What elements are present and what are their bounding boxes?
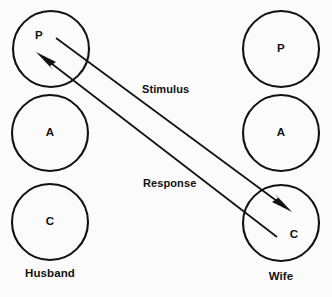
diagram-canvas: P A C Husband P A C xyxy=(0,0,332,297)
ego-state-husband-adult[interactable]: A xyxy=(12,95,88,171)
husband-column: P A C Husband xyxy=(12,11,89,279)
ego-state-wife-adult[interactable]: A xyxy=(243,95,319,171)
transaction-diagram: P A C Husband P A C xyxy=(0,0,332,297)
wife-adult-letter: A xyxy=(277,126,286,138)
wife-column: P A C Wife xyxy=(243,11,319,282)
wife-child-letter: C xyxy=(290,228,299,240)
wife-column-label: Wife xyxy=(269,270,294,282)
stimulus-label: Stimulus xyxy=(142,83,189,95)
husband-parent-letter: P xyxy=(35,29,43,41)
wife-parent-letter: P xyxy=(277,42,285,54)
ego-state-wife-parent[interactable]: P xyxy=(243,11,319,87)
ego-state-wife-child[interactable]: C xyxy=(243,185,319,261)
husband-column-label: Husband xyxy=(25,267,75,279)
husband-parent-circle[interactable] xyxy=(13,11,89,87)
wife-child-circle[interactable] xyxy=(243,185,319,261)
ego-state-husband-parent[interactable]: P xyxy=(13,11,89,87)
ego-state-husband-child[interactable]: C xyxy=(12,184,88,260)
husband-adult-letter: A xyxy=(46,126,55,138)
response-label: Response xyxy=(143,177,196,189)
husband-child-letter: C xyxy=(46,215,55,227)
